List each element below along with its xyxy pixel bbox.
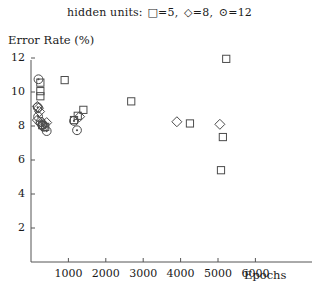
data-point-square <box>217 167 224 174</box>
scatter-plot <box>0 0 320 303</box>
data-point-diamond <box>215 119 225 129</box>
plot-points <box>32 55 229 174</box>
data-point-square <box>37 93 44 100</box>
data-point-circled-dot <box>34 112 43 121</box>
data-point-square <box>61 77 68 84</box>
plot-axes <box>31 58 312 262</box>
data-point-square <box>128 98 135 105</box>
data-point-square <box>219 133 226 140</box>
data-point-circled-dot <box>73 126 82 135</box>
data-point-square <box>223 55 230 62</box>
data-point-square <box>186 120 193 127</box>
data-point-square <box>37 88 44 95</box>
data-point-diamond <box>172 117 182 127</box>
